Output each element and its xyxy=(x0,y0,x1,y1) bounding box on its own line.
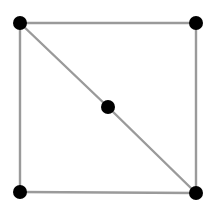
node-top-left xyxy=(13,16,27,30)
node-bottom-left xyxy=(13,185,27,199)
node-center xyxy=(101,100,115,114)
graph-diagram xyxy=(0,0,212,210)
edge-center-to-bottom-right xyxy=(108,107,196,193)
edge-bottom-right-to-bottom-left xyxy=(20,192,196,193)
node-bottom-right xyxy=(189,186,203,200)
node-top-right xyxy=(189,16,203,30)
edge-top-left-to-center xyxy=(20,23,108,107)
